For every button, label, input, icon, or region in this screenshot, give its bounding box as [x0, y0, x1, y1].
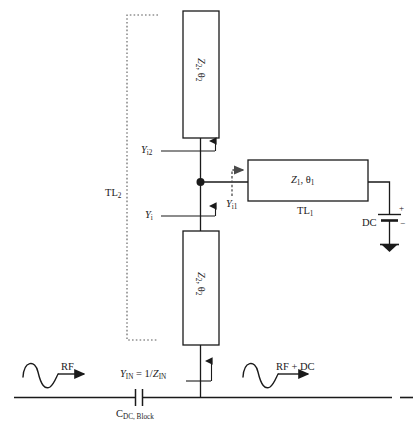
upper-stub-theta: θ — [196, 73, 207, 78]
y-i-text: Y — [145, 209, 151, 220]
cap-block-text: C — [116, 408, 123, 419]
upper-stub-z-sub: 2 — [194, 64, 202, 68]
cap-block-sub: DC, Block — [123, 413, 154, 421]
rf-input-label: RF — [61, 362, 74, 373]
rf-dc-output-label: RF + DC — [276, 362, 315, 373]
y-i1-sub: i1 — [232, 203, 238, 211]
dc-block-capacitor-label: CDC, Block — [116, 409, 154, 420]
rf-input-waveform — [23, 363, 84, 387]
y-in-label: YIN = 1/ZIN — [120, 369, 166, 380]
tl2-bracket — [127, 15, 158, 340]
y-in-z-sub: IN — [159, 373, 167, 381]
y-i2-label: Yi2 — [141, 145, 152, 156]
y-i1-annotation — [232, 170, 243, 196]
series-line-theta: θ — [306, 174, 311, 185]
y-in-equals: = 1/ — [133, 368, 152, 379]
lower-stub-theta: θ — [196, 287, 207, 292]
tl2-bracket-label: TL2 — [105, 188, 121, 199]
series-line-caption: TL1 — [297, 206, 313, 217]
dc-plus-sign: + — [399, 204, 404, 213]
y-i-annotation — [161, 206, 216, 216]
y-i-label: Yi — [145, 210, 153, 221]
upper-stub-theta-sub: 2 — [194, 78, 202, 82]
lower-stub-z: Z — [196, 272, 207, 278]
series-line-z-sub: 1 — [297, 179, 301, 187]
dc-minus-sign: − — [400, 219, 405, 228]
y-in-text: Y — [120, 368, 126, 379]
tl2-bracket-sub: 2 — [118, 192, 122, 200]
series-line-theta-sub: 1 — [311, 179, 315, 187]
y-i1-label: Yi1 — [226, 199, 237, 210]
y-i2-annotation — [161, 141, 216, 151]
y-in-sub: IN — [126, 373, 134, 381]
circuit-diagram: Z2, θ2 Z2, θ2 Z1, θ1 TL1 TL2 Yi2 Yi Yi1 … — [0, 0, 420, 445]
series-line-z: Z — [291, 174, 297, 185]
tl2-bracket-text: TL — [105, 187, 118, 198]
series-line-caption-text: TL — [297, 205, 310, 216]
y-i2-sub: i2 — [147, 149, 153, 157]
circuit-svg — [0, 0, 420, 445]
dc-block-capacitor — [136, 389, 143, 406]
series-line-block — [201, 160, 369, 201]
dc-source-label: DC — [362, 218, 377, 229]
series-line-caption-sub: 1 — [310, 210, 314, 218]
y-in-annotation — [186, 361, 212, 381]
y-i1-text: Y — [226, 198, 232, 209]
upper-stub-label: Z2, θ2 — [196, 58, 207, 81]
lower-stub-label: Z2, θ2 — [196, 272, 207, 295]
lower-stub-theta-sub: 2 — [194, 292, 202, 296]
upper-stub-z: Z — [196, 58, 207, 64]
series-line-label: Z1, θ1 — [291, 175, 314, 186]
y-in-z: Z — [153, 368, 159, 379]
y-i2-text: Y — [141, 144, 147, 155]
lower-stub-z-sub: 2 — [194, 278, 202, 282]
y-i-sub: i — [151, 214, 153, 222]
